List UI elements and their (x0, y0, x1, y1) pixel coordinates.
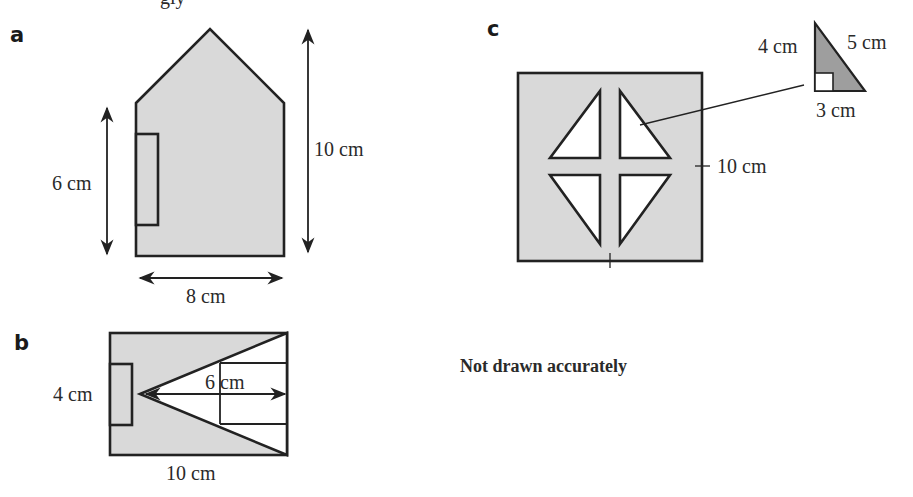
door-rect (136, 134, 158, 225)
vertical-leg-label: 4 cm (758, 35, 798, 57)
wall-height-label: 6 cm (52, 172, 92, 194)
side-label: 10 cm (717, 155, 767, 177)
square-shape (518, 73, 702, 261)
width-label: 8 cm (186, 285, 226, 307)
part-a-label: a (10, 23, 24, 47)
height-label: 10 cm (314, 138, 364, 160)
inner-length-label: 6 cm (205, 371, 245, 393)
part-c: c 10 cm 4 cm 5 cm 3 cm (487, 17, 887, 268)
horizontal-leg-label: 3 cm (816, 99, 856, 121)
part-c-label: c (487, 17, 499, 41)
part-b: b 6 cm 4 cm 10 cm (14, 331, 287, 484)
height-label: 4 cm (53, 383, 93, 405)
not-drawn-accurately-note: Not drawn accurately (460, 356, 627, 376)
hypotenuse-label: 5 cm (847, 31, 887, 53)
part-b-label: b (14, 331, 29, 355)
figure-canvas: gly a 10 cm 6 cm 8 cm b 6 cm 4 cm 10 cm … (0, 0, 913, 497)
width-label: 10 cm (166, 462, 216, 484)
right-angle-marker (815, 73, 833, 91)
clipped-heading-text: gly (160, 0, 186, 9)
door-rect (110, 364, 132, 425)
part-a: a 10 cm 6 cm 8 cm (10, 23, 364, 307)
